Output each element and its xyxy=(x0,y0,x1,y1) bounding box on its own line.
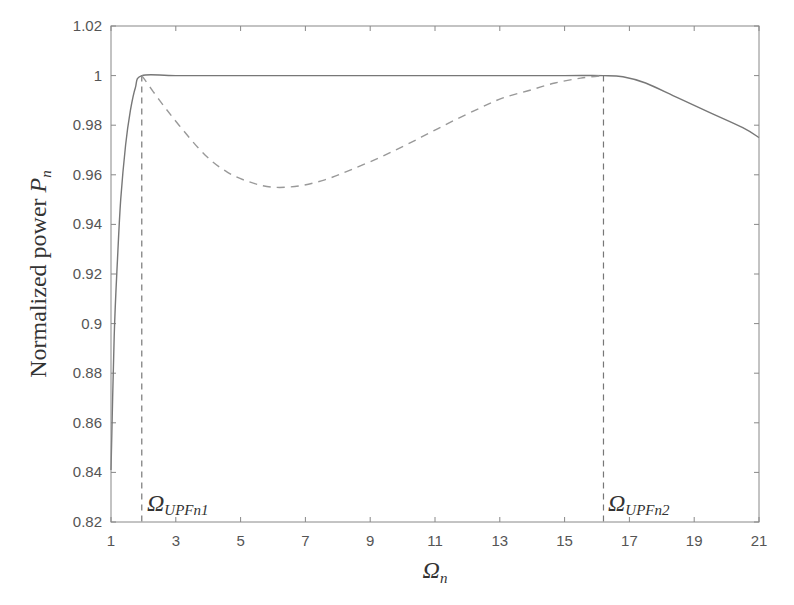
series-solid-line xyxy=(111,75,759,470)
x-tick-label: 21 xyxy=(751,532,768,549)
x-tick-label: 3 xyxy=(172,532,180,549)
chart: 135791113151719210.820.840.860.880.90.92… xyxy=(0,0,794,605)
y-tick-label: 0.86 xyxy=(73,414,102,431)
axis-ticks xyxy=(111,26,759,522)
y-tick-label: 1 xyxy=(94,67,102,84)
x-tick-label: 7 xyxy=(301,532,309,549)
y-tick-label: 0.82 xyxy=(73,513,102,530)
x-axis-label: Ωn xyxy=(423,557,448,586)
series-dashed-line xyxy=(142,76,604,188)
x-tick-label: 9 xyxy=(366,532,374,549)
x-tick-label: 15 xyxy=(556,532,573,549)
y-tick-label: 0.94 xyxy=(73,215,102,232)
y-tick-label: 0.98 xyxy=(73,116,102,133)
x-tick-label: 11 xyxy=(427,532,443,549)
y-tick-label: 0.84 xyxy=(73,463,102,480)
plot-frame xyxy=(111,26,759,522)
y-tick-label: 0.9 xyxy=(81,315,102,332)
y-tick-label: 0.88 xyxy=(73,364,102,381)
y-tick-label: 0.96 xyxy=(73,166,102,183)
x-tick-label: 17 xyxy=(621,532,638,549)
x-tick-label: 19 xyxy=(686,532,703,549)
annotation-upfn1: ΩUPFn1 xyxy=(147,490,209,518)
x-tick-label: 1 xyxy=(107,532,115,549)
annotation-upfn2: ΩUPFn2 xyxy=(608,490,670,518)
x-tick-label: 5 xyxy=(236,532,244,549)
tick-labels: 135791113151719210.820.840.860.880.90.92… xyxy=(73,17,768,549)
y-axis-label: Normalized power Pn xyxy=(25,170,54,377)
data-series xyxy=(111,75,759,470)
y-tick-label: 0.92 xyxy=(73,265,102,282)
upf-vertical-lines xyxy=(142,76,604,522)
x-tick-label: 13 xyxy=(491,532,508,549)
y-tick-label: 1.02 xyxy=(73,17,102,34)
